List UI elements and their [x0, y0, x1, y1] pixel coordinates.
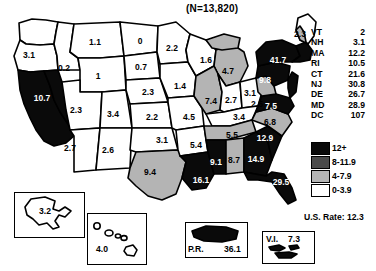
us-states-map: [0, 0, 320, 210]
legend-label-12plus: 12+: [332, 143, 347, 153]
state-shape-WY[interactable]: [78, 56, 126, 92]
territory-shape-VI-st-john[interactable]: [289, 245, 299, 250]
state-shape-WA[interactable]: [19, 19, 58, 45]
state-shape-MT[interactable]: [70, 22, 124, 58]
us-rate-label: U.S. Rate: 12.3: [304, 212, 364, 222]
state-shape-HI-bigisland[interactable]: [124, 245, 137, 256]
state-shape-KS[interactable]: [130, 102, 172, 128]
abbr-code-NH: NH: [311, 37, 323, 47]
state-shape-HI-kauai[interactable]: [94, 223, 100, 229]
legend-item-8-11.9[interactable]: 8-11.9: [311, 155, 356, 169]
legend-label-8-11.9: 8-11.9: [332, 157, 356, 167]
abbr-code-DE: DE: [311, 89, 323, 99]
legend-item-4-7.9[interactable]: 4-7.9: [311, 169, 356, 183]
state-shape-ND[interactable]: [120, 22, 158, 56]
inset-puerto-rico: P.R. 36.1: [185, 222, 248, 258]
abbr-code-DC: DC: [311, 110, 323, 120]
state-shape-FL[interactable]: [244, 172, 296, 204]
abbr-code-NJ: NJ: [311, 79, 322, 89]
state-shape-AL[interactable]: [226, 138, 244, 174]
state-shape-HI-molokai[interactable]: [115, 234, 120, 238]
state-shape-MN[interactable]: [157, 22, 190, 64]
state-shape-TX[interactable]: [128, 150, 186, 200]
inset-label-vi: V.I.: [266, 234, 278, 244]
abbr-value-NJ: 30.8: [348, 79, 365, 89]
state-shape-OK[interactable]: [130, 128, 178, 152]
legend-swatch-4-7.9: [311, 170, 330, 183]
inset-label-pr-value: 36.1: [224, 244, 241, 254]
abbr-value-CT: 21.6: [348, 69, 365, 79]
abbr-value-DC: 107: [351, 110, 365, 120]
abbr-code-MA: MA: [311, 48, 324, 58]
state-shape-MI-upper[interactable]: [206, 34, 240, 50]
abbr-code-VT: VT: [311, 27, 322, 37]
abbr-code-CT: CT: [311, 69, 322, 79]
abbr-value-DE: 26.7: [348, 89, 365, 99]
state-shape-AR[interactable]: [176, 126, 208, 156]
inset-label-pr: P.R.: [188, 244, 204, 254]
state-shape-NJ-DE-MD[interactable]: [288, 72, 298, 98]
state-shape-HI-maui[interactable]: [121, 236, 127, 241]
inset-label-alaska-value: 3.2: [39, 206, 51, 216]
abbr-value-MD: 28.9: [348, 100, 365, 110]
legend-item-12plus[interactable]: 12+: [311, 141, 356, 155]
legend-label-4-7.9: 4-7.9: [332, 171, 352, 181]
abbr-code-RI: RI: [311, 58, 320, 68]
legend-swatch-8-11.9: [311, 156, 330, 169]
state-shape-AZ[interactable]: [70, 128, 100, 172]
abbr-value-RI: 10.5: [348, 58, 365, 68]
abbr-code-MD: MD: [311, 100, 324, 110]
legend-swatch-0-3.9: [311, 184, 330, 197]
abbr-value-NH: 3.1: [353, 37, 365, 47]
territory-shape-VI-st-croix[interactable]: [275, 252, 297, 258]
inset-virgin-islands: V.I. 7.3: [262, 231, 315, 264]
state-shape-OR[interactable]: [14, 40, 58, 72]
abbr-value-VT: 2: [360, 27, 365, 37]
us-choropleth-map-figure: (N=13,820): [0, 0, 376, 271]
state-shape-SD[interactable]: [124, 52, 160, 80]
inset-hawaii: 4.0: [87, 213, 147, 265]
hawaii-shape-svg: [88, 214, 145, 263]
territory-shape-PR[interactable]: [192, 226, 238, 242]
inset-label-hawaii-value: 4.0: [96, 244, 108, 254]
legend-label-0-3.9: 0-3.9: [332, 185, 352, 195]
map-legend: 12+ 8-11.9 4-7.9 0-3.9: [311, 141, 356, 197]
inset-label-vi-value: 7.3: [288, 234, 300, 244]
legend-swatch-12plus: [311, 142, 330, 155]
state-shape-NM[interactable]: [96, 128, 132, 170]
territory-shape-VI-st-thomas[interactable]: [269, 245, 285, 251]
state-shape-HI-oahu[interactable]: [105, 230, 113, 236]
legend-item-0-3.9[interactable]: 0-3.9: [311, 183, 356, 197]
abbr-value-MA: 12.2: [348, 48, 365, 58]
inset-alaska: 3.2: [14, 192, 85, 238]
